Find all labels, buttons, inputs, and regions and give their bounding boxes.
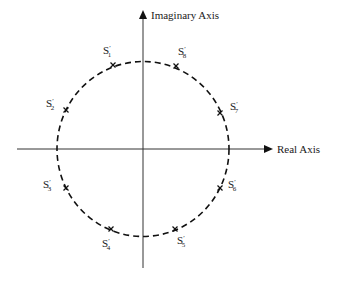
point-label: S′4	[102, 237, 111, 252]
cross-marker-icon	[111, 63, 116, 68]
point-label: S′3	[43, 178, 52, 193]
point-label: S′8	[178, 45, 187, 60]
point-label: S′6	[228, 178, 237, 193]
point-label: S′5	[177, 234, 186, 249]
point-label: S′7	[230, 100, 239, 115]
point-label: S′2	[46, 97, 55, 112]
s-plane-diagram: Real Axis Imaginary Axis S′1S′8S′2S′7S′3…	[0, 0, 337, 281]
real-axis-arrow-icon	[264, 145, 273, 153]
pole-points: S′1S′8S′2S′7S′3S′6S′4S′5	[43, 44, 239, 252]
point-label: S′1	[103, 44, 112, 59]
imaginary-axis-label: Imaginary Axis	[151, 9, 219, 21]
imaginary-axis-arrow-icon	[139, 10, 147, 19]
real-axis-label: Real Axis	[277, 143, 320, 155]
